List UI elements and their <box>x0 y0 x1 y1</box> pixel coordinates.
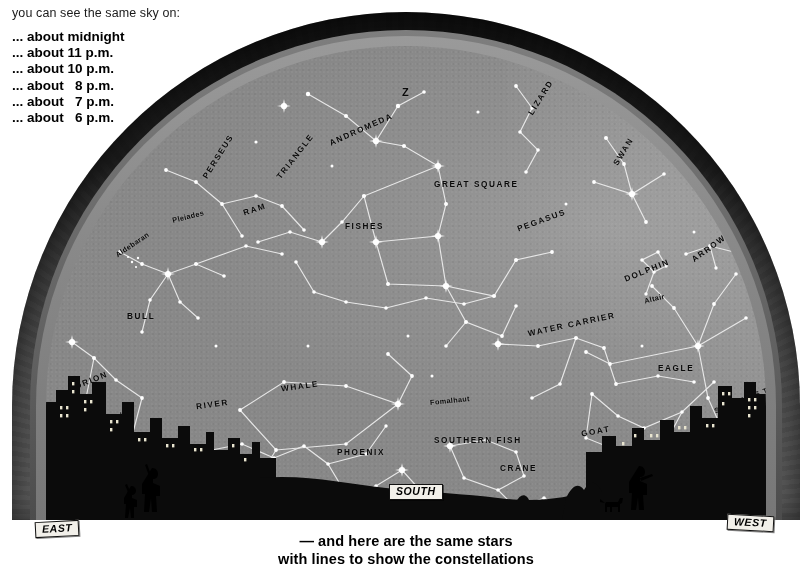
legend-row: ... about 11 p.m. <box>12 45 180 61</box>
time-legend: you can see the same sky on: ... about m… <box>12 6 180 126</box>
star-chart-page: you can see the same sky on: ... about m… <box>0 0 812 572</box>
caption-line-2: with lines to show the constellations <box>0 550 812 568</box>
direction-plaque-south: SOUTH <box>389 484 443 500</box>
direction-plaque-east: EAST <box>35 520 80 538</box>
legend-heading: you can see the same sky on: <box>12 6 180 20</box>
legend-row: ... about 10 p.m. <box>12 61 180 77</box>
legend-row: ... about 8 p.m. <box>12 78 180 94</box>
caption-line-1: — and here are the same stars <box>0 532 812 550</box>
legend-row: ... about 7 p.m. <box>12 94 180 110</box>
people-left <box>124 464 160 518</box>
people-right <box>600 466 653 512</box>
legend-row: ... about midnight <box>12 29 180 45</box>
bottom-caption: — and here are the same stars with lines… <box>0 532 812 568</box>
legend-rows: ... about midnight ... about 11 p.m. ...… <box>12 29 180 126</box>
direction-plaque-west: WEST <box>727 514 775 532</box>
legend-row: ... about 6 p.m. <box>12 110 180 126</box>
